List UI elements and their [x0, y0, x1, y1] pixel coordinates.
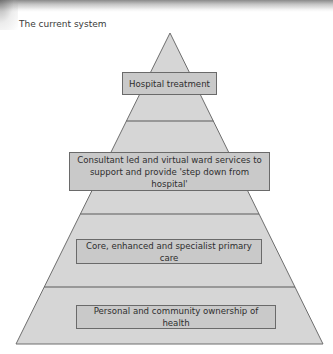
tier-label: Personal and community ownership of heal…	[81, 305, 271, 329]
tier-label: Consultant led and virtual ward services…	[74, 154, 265, 190]
tier-consultant-led-services: Consultant led and virtual ward services…	[69, 152, 270, 191]
tier-hospital-treatment: Hospital treatment	[122, 72, 217, 95]
tier-label: Hospital treatment	[129, 78, 210, 90]
tier-primary-care: Core, enhanced and specialist primary ca…	[76, 239, 262, 264]
tier-label: Core, enhanced and specialist primary ca…	[81, 240, 257, 264]
tier-personal-community-health: Personal and community ownership of heal…	[76, 305, 276, 329]
